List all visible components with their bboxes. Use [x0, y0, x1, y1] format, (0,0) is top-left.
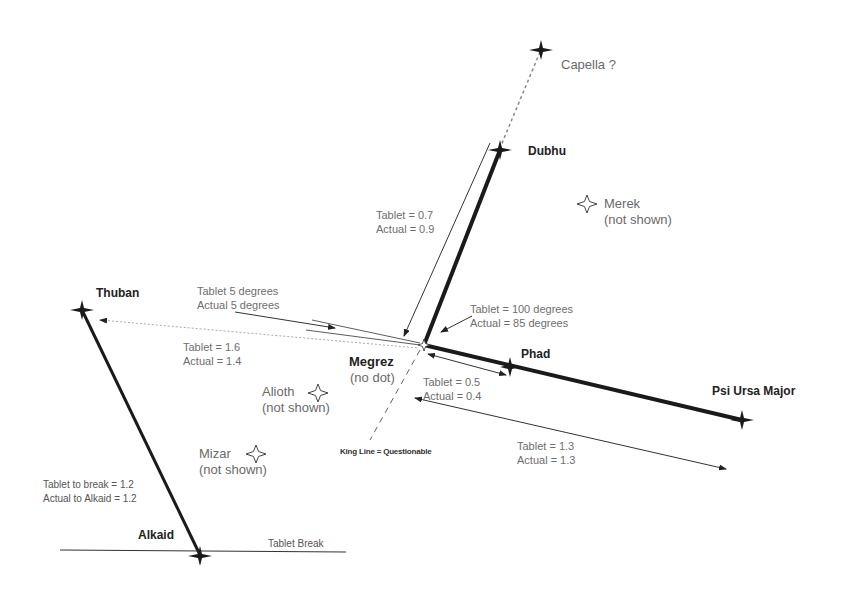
- angle100-actual: Actual = 85 degrees: [470, 316, 568, 330]
- capella-label: Capella ?: [561, 57, 616, 73]
- tablet-break-label: Tablet Break: [268, 537, 324, 550]
- psi-star-icon: [730, 410, 754, 430]
- tablet-break-line: [60, 550, 346, 552]
- megrez-psi-actual: Actual = 1.3: [517, 453, 575, 467]
- dubhu-label: Dubhu: [528, 144, 566, 158]
- angle5-arrow: [235, 312, 335, 328]
- thuban-alkaid-tablet: Tablet to break = 1.2: [43, 478, 134, 491]
- megrez-phad-tablet: Tablet = 0.5: [423, 375, 480, 389]
- mizar-label: Mizar: [199, 446, 231, 462]
- merek-note: (not shown): [604, 212, 672, 228]
- thuban-megrez-actual: Actual = 1.4: [183, 354, 241, 368]
- angle5-ray-2: [306, 330, 420, 345]
- mizar-note: (not shown): [199, 462, 267, 478]
- dubhu-megrez-tablet: Tablet = 0.7: [376, 208, 433, 222]
- megrez-phad-actual: Actual = 0.4: [423, 389, 481, 403]
- star-diagram: [0, 0, 857, 609]
- angle5-ray-1: [312, 320, 420, 343]
- thuban-megrez-dotted-line: [100, 320, 418, 348]
- thuban-star-icon: [70, 300, 94, 320]
- megrez-note: (no dot): [350, 370, 395, 386]
- thuban-label: Thuban: [96, 286, 139, 300]
- dubhu-star-icon: [488, 140, 512, 160]
- megrez-psi-tablet: Tablet = 1.3: [517, 439, 574, 453]
- alkaid-star-icon: [188, 546, 212, 566]
- merek-label: Merek: [604, 196, 640, 212]
- mizar-star-icon: [246, 445, 266, 463]
- megrez-star-icon: [418, 339, 430, 351]
- alkaid-label: Alkaid: [138, 528, 174, 542]
- merek-star-icon: [577, 195, 597, 213]
- dubhu-megrez-actual: Actual = 0.9: [376, 222, 434, 236]
- king-line-label: King Line = Questionable: [340, 447, 431, 456]
- angle100-arrow: [441, 316, 472, 332]
- phad-label: Phad: [521, 347, 550, 361]
- thuban-alkaid-actual: Actual to Alkaid = 1.2: [43, 492, 137, 505]
- alioth-note: (not shown): [262, 400, 330, 416]
- megrez-label: Megrez: [349, 354, 394, 369]
- angle5-tablet: Tablet 5 degrees: [197, 284, 278, 298]
- angle100-tablet: Tablet = 100 degrees: [470, 302, 573, 316]
- capella-dotted-line: [500, 52, 540, 148]
- psi-label: Psi Ursa Major: [712, 384, 795, 398]
- thuban-megrez-tablet: Tablet = 1.6: [183, 340, 240, 354]
- alioth-label: Alioth: [262, 384, 295, 400]
- capella-star-icon: [529, 40, 553, 60]
- angle5-actual: Actual 5 degrees: [197, 298, 280, 312]
